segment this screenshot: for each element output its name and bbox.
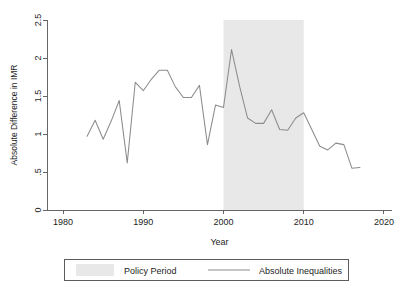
y-axis-title: Absolute Difference in IMR (9, 65, 19, 166)
y-tick-label: 2 (33, 55, 43, 60)
legend-label-absolute-inequalities: Absolute Inequalities (259, 266, 343, 276)
policy-period-band (224, 20, 304, 210)
y-tick-label: .5 (33, 168, 43, 176)
y-tick-label: 0 (33, 207, 43, 212)
x-tick-label: 1990 (133, 217, 153, 227)
x-tick-label: 2020 (374, 217, 394, 227)
x-axis-title: Year (210, 237, 228, 247)
x-tick-label: 1980 (53, 217, 73, 227)
x-tick-label: 2010 (294, 217, 314, 227)
policy-period-band-group (224, 20, 304, 210)
y-tick-label: 2.5 (33, 14, 43, 27)
chart-background (0, 0, 412, 290)
legend-swatch-policy-period (76, 264, 114, 276)
absolute-difference-in-imr-line-chart: 0.511.522.5 Absolute Difference in IMR 1… (0, 0, 412, 290)
x-tick-label: 2000 (213, 217, 233, 227)
y-tick-label: 1.5 (33, 90, 43, 103)
legend-label-policy-period: Policy Period (124, 266, 177, 276)
y-tick-label: 1 (33, 131, 43, 136)
chart-figure: 0.511.522.5 Absolute Difference in IMR 1… (0, 0, 412, 290)
